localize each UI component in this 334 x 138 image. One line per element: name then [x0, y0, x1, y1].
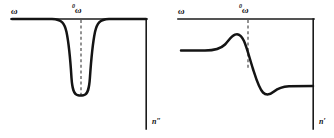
physics-figure: ω 0ω n″ ω 0ω n′	[0, 0, 334, 138]
omega-zero-subscript: 0	[239, 3, 242, 9]
n-prime-label: n′	[319, 118, 326, 126]
absorption-curve	[12, 19, 146, 95]
absorption-plot	[0, 0, 167, 138]
n-double-prime-label: n″	[152, 118, 161, 126]
omega-axis-label: ω	[178, 7, 185, 16]
omega-zero-base: ω	[75, 5, 82, 15]
omega-zero-subscript: 0	[72, 3, 75, 9]
omega-axis-label: ω	[11, 7, 18, 16]
dispersion-curve	[181, 34, 313, 94]
panel-absorption: ω 0ω n″	[0, 0, 167, 138]
dispersion-plot	[167, 0, 334, 138]
omega-zero-label: 0ω	[72, 4, 82, 15]
omega-zero-label: 0ω	[239, 4, 249, 15]
omega-zero-base: ω	[242, 5, 249, 15]
panel-dispersion: ω 0ω n′	[167, 0, 334, 138]
